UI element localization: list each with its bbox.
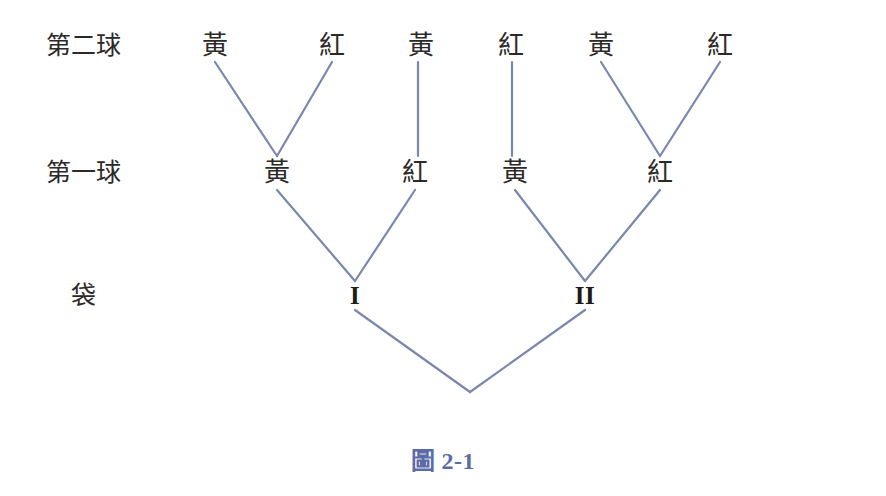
- figure-caption-number: 2-1: [442, 448, 476, 474]
- second-ball-node: 紅: [707, 32, 733, 58]
- first-ball-node: 黃: [502, 159, 528, 185]
- tree-edge: [470, 310, 585, 392]
- tree-edge: [277, 190, 355, 281]
- tree-edge: [585, 190, 660, 281]
- tree-edge: [215, 62, 277, 156]
- tree-edge: [515, 190, 585, 281]
- first-ball-node: 黃: [264, 159, 290, 185]
- row-second-ball: 第二球: [46, 33, 121, 58]
- bag-node: II: [575, 283, 595, 308]
- tree-edge: [355, 310, 470, 392]
- first-ball-node: 紅: [402, 159, 428, 185]
- row-bag: 袋: [71, 283, 96, 308]
- figure-caption: 圖2-1: [0, 441, 886, 476]
- second-ball-node: 黃: [202, 32, 228, 58]
- tree-edge: [601, 62, 660, 156]
- row-first-ball: 第一球: [46, 160, 121, 185]
- second-ball-node: 黃: [408, 32, 434, 58]
- second-ball-node: 紅: [498, 32, 524, 58]
- second-ball-node: 紅: [319, 32, 345, 58]
- first-ball-node: 紅: [647, 159, 673, 185]
- tree-edge: [660, 62, 720, 156]
- second-ball-node: 黃: [588, 32, 614, 58]
- tree-edge: [355, 190, 415, 281]
- figure-caption-prefix: 圖: [411, 446, 436, 475]
- tree-edge: [277, 62, 332, 156]
- bag-node: I: [350, 283, 360, 308]
- probability-tree-figure: 第二球第一球袋 黃紅黃紅黃紅黃紅黃紅III 圖2-1: [0, 0, 886, 496]
- tree-edges-canvas: [0, 0, 886, 496]
- edge-group: [215, 62, 720, 392]
